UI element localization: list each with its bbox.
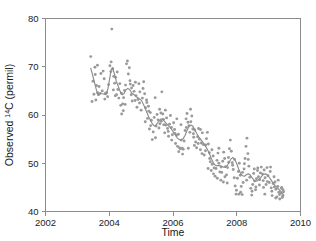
data-point xyxy=(231,164,234,167)
data-point xyxy=(156,113,159,116)
data-point xyxy=(124,103,127,106)
data-point xyxy=(128,66,131,69)
data-point xyxy=(170,139,173,142)
data-point xyxy=(232,168,235,171)
x-tick-label: 2008 xyxy=(226,217,247,228)
data-point xyxy=(141,97,144,100)
data-point xyxy=(266,180,269,183)
data-point xyxy=(160,90,163,93)
data-point xyxy=(188,131,191,134)
y-tick-label: 80 xyxy=(28,13,39,24)
data-point xyxy=(227,156,230,159)
data-point xyxy=(138,90,141,93)
data-point xyxy=(133,90,136,93)
data-point xyxy=(158,108,161,111)
data-point xyxy=(182,148,185,151)
data-point xyxy=(275,188,278,191)
data-point xyxy=(215,167,218,170)
data-point xyxy=(253,168,256,171)
data-point xyxy=(164,109,167,112)
data-point xyxy=(242,181,245,184)
data-point xyxy=(206,131,209,134)
data-point xyxy=(118,82,121,85)
data-point xyxy=(263,169,266,172)
data-point xyxy=(143,92,146,95)
data-point xyxy=(171,133,174,136)
data-point xyxy=(262,179,265,182)
data-point xyxy=(153,116,156,119)
data-point xyxy=(266,166,269,169)
data-point xyxy=(240,185,243,188)
data-point xyxy=(219,179,222,182)
data-point xyxy=(120,113,123,116)
data-point xyxy=(183,140,186,143)
data-point xyxy=(136,106,139,109)
data-point xyxy=(228,147,231,150)
x-tick-label: 2004 xyxy=(99,217,120,228)
data-point xyxy=(189,108,192,111)
data-point xyxy=(152,130,155,133)
data-point xyxy=(93,66,96,69)
data-point xyxy=(244,157,247,160)
data-point xyxy=(154,96,157,99)
data-point xyxy=(102,70,105,73)
data-point xyxy=(209,160,212,163)
data-point xyxy=(258,184,261,187)
data-point xyxy=(256,167,259,170)
data-point xyxy=(167,135,170,138)
data-point xyxy=(254,185,257,188)
data-point xyxy=(122,109,125,112)
data-point xyxy=(262,186,265,189)
data-point xyxy=(250,194,253,197)
data-point xyxy=(269,166,272,169)
data-point xyxy=(222,151,225,154)
data-point xyxy=(230,150,233,153)
data-point xyxy=(273,175,276,178)
data-point xyxy=(212,155,215,158)
data-point xyxy=(205,137,208,140)
data-point xyxy=(243,168,246,171)
data-point xyxy=(271,194,274,197)
data-point xyxy=(246,137,249,140)
data-point xyxy=(93,93,96,96)
data-point xyxy=(177,133,180,136)
data-point xyxy=(199,128,202,131)
data-point xyxy=(221,160,224,163)
data-point xyxy=(134,81,137,84)
data-point xyxy=(96,64,99,67)
y-axis-title-superscript: 14 xyxy=(4,110,11,118)
data-point xyxy=(131,100,134,103)
data-point xyxy=(110,28,113,31)
data-point xyxy=(235,189,238,192)
data-point xyxy=(220,171,223,174)
data-point xyxy=(117,97,120,100)
data-point xyxy=(246,152,249,155)
data-point xyxy=(103,98,106,101)
data-point xyxy=(127,73,130,76)
data-point xyxy=(187,121,190,124)
data-point xyxy=(277,179,280,182)
data-point xyxy=(212,172,215,175)
x-tick-label: 2010 xyxy=(290,217,311,228)
data-point xyxy=(113,82,116,85)
data-point xyxy=(241,171,244,174)
data-point xyxy=(142,87,145,90)
data-point xyxy=(263,193,266,196)
data-point xyxy=(201,152,204,155)
x-tick-label: 2002 xyxy=(35,217,56,228)
y-tick-label: 50 xyxy=(28,158,39,169)
data-point xyxy=(149,124,152,127)
data-point xyxy=(145,101,148,104)
data-point xyxy=(199,148,202,151)
data-point xyxy=(167,130,170,133)
data-point xyxy=(121,102,124,105)
x-axis-title: Time xyxy=(162,226,185,238)
data-point xyxy=(229,139,232,142)
y-axis-title-suffix: C (permil) xyxy=(3,64,15,110)
data-point xyxy=(195,146,198,149)
data-point xyxy=(132,84,135,87)
data-point xyxy=(194,141,197,144)
data-point xyxy=(151,138,154,141)
data-point xyxy=(278,198,281,201)
data-point xyxy=(148,128,151,131)
